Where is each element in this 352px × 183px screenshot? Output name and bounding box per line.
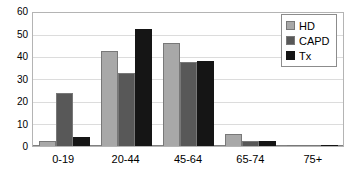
x-tick-label: 20-44	[94, 152, 156, 174]
legend: HD CAPD Tx	[281, 14, 337, 67]
bar-group-45-64	[157, 13, 219, 146]
y-tick-label: 50	[2, 30, 28, 40]
legend-label: HD	[299, 20, 315, 32]
bar-tx	[259, 141, 276, 146]
x-tick-label: 65-74	[219, 152, 281, 174]
legend-item-tx: Tx	[286, 48, 332, 63]
bar-tx	[197, 61, 214, 146]
x-tick-label: 45-64	[157, 152, 219, 174]
x-tick-label: 75+	[282, 152, 344, 174]
bar-group-0-19	[33, 13, 95, 146]
bar-capd	[180, 62, 197, 146]
bar-capd	[304, 145, 321, 146]
legend-swatch-icon	[286, 51, 295, 60]
y-tick-label: 10	[2, 120, 28, 130]
bar-chart: 0 10 20 30 40 50 60	[0, 0, 352, 183]
bar-hd	[287, 145, 304, 146]
bar-hd	[39, 141, 56, 146]
bar-tx	[73, 137, 90, 146]
y-axis: 0 10 20 30 40 50 60	[0, 12, 28, 147]
y-tick-label: 30	[2, 75, 28, 85]
bar-hd	[101, 51, 118, 146]
y-tick-label: 40	[2, 52, 28, 62]
legend-item-capd: CAPD	[286, 33, 332, 48]
legend-item-hd: HD	[286, 18, 332, 33]
x-axis: 0-19 20-44 45-64 65-74 75+	[32, 152, 344, 174]
bar-tx	[135, 29, 152, 146]
legend-label: CAPD	[299, 35, 330, 47]
x-tick-label: 0-19	[32, 152, 94, 174]
legend-swatch-icon	[286, 36, 295, 45]
bar-group-65-74	[219, 13, 281, 146]
y-tick-label: 20	[2, 97, 28, 107]
bar-group-20-44	[95, 13, 157, 146]
legend-swatch-icon	[286, 21, 295, 30]
legend-label: Tx	[299, 50, 311, 62]
bar-hd	[225, 134, 242, 146]
bar-hd	[163, 43, 180, 146]
y-tick-label: 60	[2, 7, 28, 17]
bar-capd	[242, 141, 259, 146]
bar-tx	[321, 145, 338, 146]
bar-capd	[56, 93, 73, 146]
y-tick-label: 0	[2, 142, 28, 152]
bar-capd	[118, 73, 135, 146]
